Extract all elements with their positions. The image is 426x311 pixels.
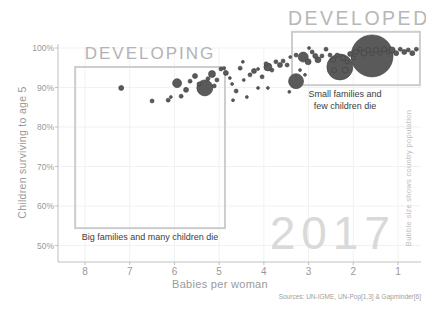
bubble-chart: DEVELOPING DEVELOPED Small families and … — [0, 0, 426, 311]
country-bubble — [252, 68, 257, 73]
country-bubble — [382, 47, 387, 52]
country-bubble — [184, 87, 189, 92]
country-bubble — [324, 47, 328, 51]
country-bubble — [192, 74, 197, 79]
country-bubble — [197, 82, 201, 86]
country-bubble — [281, 59, 285, 63]
country-bubble — [169, 95, 172, 98]
country-bubble — [328, 53, 332, 57]
developing-region-title: DEVELOPING — [73, 44, 227, 64]
country-bubble — [241, 60, 244, 63]
y-tick-label: 100% — [27, 43, 54, 53]
country-bubble — [410, 51, 415, 56]
country-bubble — [374, 47, 379, 52]
x-tick-label: 1 — [388, 266, 408, 277]
country-bubble — [234, 89, 238, 93]
country-bubble — [288, 90, 291, 93]
country-bubble — [308, 47, 311, 50]
country-bubble — [277, 62, 282, 67]
country-bubble — [208, 71, 215, 78]
country-bubble — [219, 67, 223, 71]
country-bubble — [260, 75, 264, 79]
bubble-size-note: Bubble size shows country population — [404, 92, 413, 264]
country-bubble — [378, 51, 382, 55]
sources-note: Sources: UN-IGME, UN-Pop[1,3] & Gapminde… — [200, 293, 421, 300]
country-bubble — [223, 70, 228, 75]
country-bubble — [348, 51, 353, 56]
y-tick-label: 80% — [27, 122, 54, 132]
country-bubble — [331, 57, 336, 62]
country-bubble — [353, 49, 358, 54]
developing-annotation: Big families and many children die — [64, 231, 236, 243]
country-bubble — [340, 55, 345, 60]
country-bubble — [257, 67, 260, 70]
developed-annotation: Small families and few children die — [293, 88, 397, 112]
x-tick-label: 6 — [164, 266, 184, 277]
y-tick-label: 70% — [27, 162, 54, 172]
country-bubble — [289, 74, 304, 89]
year-watermark: 2017 — [235, 209, 396, 257]
country-bubble — [394, 51, 399, 56]
country-bubble — [274, 60, 278, 64]
x-tick-label: 4 — [254, 266, 274, 277]
country-bubble — [231, 82, 234, 85]
country-bubble — [223, 67, 226, 70]
country-bubble — [335, 53, 339, 57]
x-tick-label: 2 — [343, 266, 363, 277]
country-bubble — [150, 99, 154, 103]
country-bubble — [257, 86, 260, 89]
country-bubble — [414, 47, 418, 51]
country-bubble — [173, 79, 182, 88]
country-bubble — [285, 63, 289, 67]
country-bubble — [370, 52, 374, 56]
x-tick-label: 7 — [120, 266, 140, 277]
country-bubble — [238, 66, 242, 70]
y-tick-label: 90% — [27, 83, 54, 93]
country-bubble — [264, 62, 268, 66]
country-bubble — [320, 54, 324, 58]
country-bubble — [332, 68, 337, 73]
country-bubble — [303, 73, 306, 76]
country-bubble — [351, 56, 355, 60]
country-bubble — [310, 50, 314, 54]
x-tick-label: 8 — [75, 266, 95, 277]
country-bubble — [166, 98, 170, 102]
country-bubble — [327, 54, 353, 80]
developed-region-title: DEVELOPED — [288, 7, 422, 30]
country-bubble — [215, 78, 219, 82]
country-bubble — [212, 84, 216, 88]
country-bubble — [398, 47, 402, 51]
x-axis-label: Babies per woman — [130, 278, 310, 290]
country-bubble — [228, 77, 231, 80]
developed-annotation-line2: few children die — [293, 100, 397, 112]
developed-annotation-line1: Small families and — [293, 88, 397, 100]
country-bubble — [294, 53, 298, 57]
y-tick-label: 50% — [27, 241, 54, 251]
country-bubble — [305, 59, 311, 65]
country-bubble — [358, 47, 362, 51]
x-tick-label: 5 — [209, 266, 229, 277]
country-bubble — [179, 94, 183, 98]
country-bubble — [345, 60, 349, 64]
country-bubble — [242, 78, 245, 81]
country-bubble — [366, 47, 371, 52]
country-bubble — [289, 56, 292, 59]
country-bubble — [406, 48, 410, 52]
country-bubble — [299, 69, 302, 72]
country-bubble — [188, 79, 192, 83]
country-bubble — [266, 86, 269, 89]
country-bubble — [232, 99, 235, 102]
country-bubble — [119, 85, 124, 90]
country-bubble — [386, 50, 390, 54]
country-bubble — [313, 53, 318, 58]
country-bubble — [245, 95, 248, 98]
x-tick-label: 3 — [299, 266, 319, 277]
y-tick-label: 60% — [27, 201, 54, 211]
country-bubble — [206, 77, 210, 81]
country-bubble — [270, 68, 274, 72]
country-bubble — [342, 67, 348, 73]
country-bubble — [248, 73, 252, 77]
